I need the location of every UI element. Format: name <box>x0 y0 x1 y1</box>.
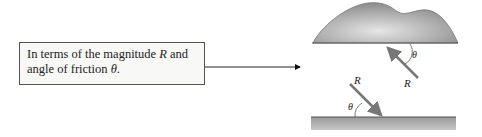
upper-force-label: R <box>403 77 411 89</box>
upper-angle-label: θ <box>412 49 417 60</box>
friction-diagram: θ R θ R <box>0 0 482 137</box>
lower-angle-label: θ <box>348 101 353 112</box>
lower-angle-arc <box>355 103 362 117</box>
lower-force-label: R <box>353 74 361 86</box>
ground-surface <box>311 117 456 130</box>
lower-force-arrow <box>350 84 381 115</box>
upper-body <box>313 3 458 43</box>
